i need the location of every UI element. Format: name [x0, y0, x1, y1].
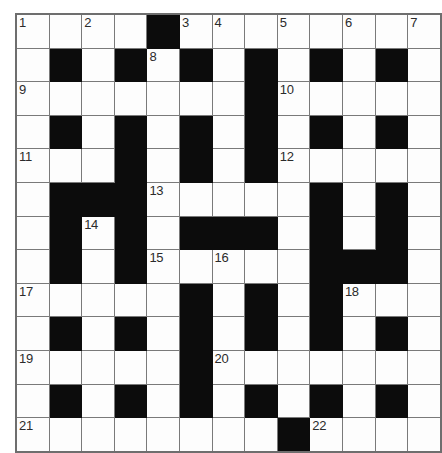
crossword-cell[interactable] — [82, 82, 115, 116]
crossword-cell[interactable] — [49, 149, 82, 183]
crossword-cell[interactable]: 15 — [147, 250, 180, 284]
crossword-cell[interactable]: 13 — [147, 182, 180, 216]
crossword-cell[interactable] — [49, 14, 82, 48]
crossword-cell[interactable] — [277, 350, 310, 384]
crossword-cell[interactable] — [310, 149, 343, 183]
crossword-cell[interactable] — [375, 149, 408, 183]
crossword-cell[interactable] — [342, 317, 375, 351]
crossword-cell[interactable]: 17 — [16, 283, 49, 317]
crossword-cell[interactable]: 5 — [277, 14, 310, 48]
crossword-cell[interactable] — [114, 82, 147, 116]
crossword-cell[interactable] — [147, 149, 180, 183]
crossword-cell[interactable] — [342, 115, 375, 149]
crossword-cell[interactable] — [342, 418, 375, 452]
crossword-cell[interactable] — [310, 82, 343, 116]
crossword-cell[interactable] — [212, 384, 245, 418]
crossword-cell[interactable] — [277, 216, 310, 250]
crossword-cell[interactable] — [114, 283, 147, 317]
crossword-cell[interactable] — [212, 182, 245, 216]
crossword-cell[interactable] — [16, 317, 49, 351]
crossword-cell[interactable] — [408, 82, 441, 116]
crossword-cell[interactable] — [375, 283, 408, 317]
crossword-cell[interactable] — [16, 216, 49, 250]
crossword-cell[interactable] — [212, 149, 245, 183]
crossword-cell[interactable] — [147, 216, 180, 250]
crossword-cell[interactable] — [147, 115, 180, 149]
crossword-cell[interactable] — [114, 14, 147, 48]
crossword-cell[interactable] — [342, 149, 375, 183]
crossword-cell[interactable] — [49, 350, 82, 384]
crossword-cell[interactable]: 18 — [342, 283, 375, 317]
crossword-cell[interactable] — [179, 182, 212, 216]
crossword-cell[interactable]: 22 — [310, 418, 343, 452]
crossword-cell[interactable] — [212, 48, 245, 82]
crossword-cell[interactable] — [277, 48, 310, 82]
crossword-cell[interactable] — [408, 182, 441, 216]
crossword-cell[interactable] — [16, 115, 49, 149]
crossword-cell[interactable] — [408, 418, 441, 452]
crossword-cell[interactable] — [82, 250, 115, 284]
crossword-cell[interactable]: 16 — [212, 250, 245, 284]
crossword-cell[interactable] — [342, 82, 375, 116]
crossword-cell[interactable] — [82, 418, 115, 452]
crossword-cell[interactable] — [49, 418, 82, 452]
crossword-cell[interactable] — [245, 350, 278, 384]
crossword-cell[interactable] — [277, 384, 310, 418]
crossword-cell[interactable]: 9 — [16, 82, 49, 116]
crossword-cell[interactable] — [342, 350, 375, 384]
crossword-cell[interactable] — [16, 250, 49, 284]
crossword-cell[interactable] — [82, 115, 115, 149]
crossword-cell[interactable] — [277, 182, 310, 216]
crossword-cell[interactable] — [114, 418, 147, 452]
crossword-cell[interactable] — [245, 182, 278, 216]
crossword-cell[interactable]: 10 — [277, 82, 310, 116]
crossword-cell[interactable] — [147, 317, 180, 351]
crossword-cell[interactable] — [375, 82, 408, 116]
crossword-cell[interactable]: 6 — [342, 14, 375, 48]
crossword-cell[interactable]: 2 — [82, 14, 115, 48]
crossword-cell[interactable] — [375, 350, 408, 384]
crossword-cell[interactable] — [212, 418, 245, 452]
crossword-cell[interactable] — [375, 14, 408, 48]
crossword-cell[interactable] — [16, 182, 49, 216]
crossword-cell[interactable] — [408, 149, 441, 183]
crossword-cell[interactable] — [179, 250, 212, 284]
crossword-cell[interactable] — [408, 250, 441, 284]
crossword-cell[interactable] — [49, 82, 82, 116]
crossword-cell[interactable] — [245, 250, 278, 284]
crossword-cell[interactable]: 4 — [212, 14, 245, 48]
crossword-cell[interactable]: 7 — [408, 14, 441, 48]
crossword-cell[interactable] — [49, 283, 82, 317]
crossword-cell[interactable] — [82, 283, 115, 317]
crossword-cell[interactable]: 14 — [82, 216, 115, 250]
crossword-cell[interactable] — [147, 283, 180, 317]
crossword-cell[interactable] — [408, 216, 441, 250]
crossword-cell[interactable] — [408, 283, 441, 317]
crossword-cell[interactable] — [277, 283, 310, 317]
crossword-cell[interactable]: 1 — [16, 14, 49, 48]
crossword-cell[interactable] — [342, 182, 375, 216]
crossword-cell[interactable] — [212, 283, 245, 317]
crossword-cell[interactable] — [342, 384, 375, 418]
crossword-cell[interactable] — [408, 350, 441, 384]
crossword-cell[interactable] — [179, 418, 212, 452]
crossword-cell[interactable] — [375, 418, 408, 452]
crossword-cell[interactable] — [408, 48, 441, 82]
crossword-cell[interactable] — [82, 48, 115, 82]
crossword-cell[interactable] — [277, 317, 310, 351]
crossword-cell[interactable] — [277, 115, 310, 149]
crossword-cell[interactable]: 21 — [16, 418, 49, 452]
crossword-cell[interactable] — [82, 350, 115, 384]
crossword-cell[interactable]: 19 — [16, 350, 49, 384]
crossword-cell[interactable] — [277, 250, 310, 284]
crossword-cell[interactable] — [16, 384, 49, 418]
crossword-grid[interactable]: 12345678910111213141516171819202122 — [15, 13, 442, 453]
crossword-cell[interactable] — [147, 350, 180, 384]
crossword-cell[interactable] — [408, 384, 441, 418]
crossword-cell[interactable]: 12 — [277, 149, 310, 183]
crossword-cell[interactable] — [179, 82, 212, 116]
crossword-cell[interactable] — [212, 115, 245, 149]
crossword-cell[interactable] — [310, 14, 343, 48]
crossword-cell[interactable]: 11 — [16, 149, 49, 183]
crossword-cell[interactable] — [82, 149, 115, 183]
